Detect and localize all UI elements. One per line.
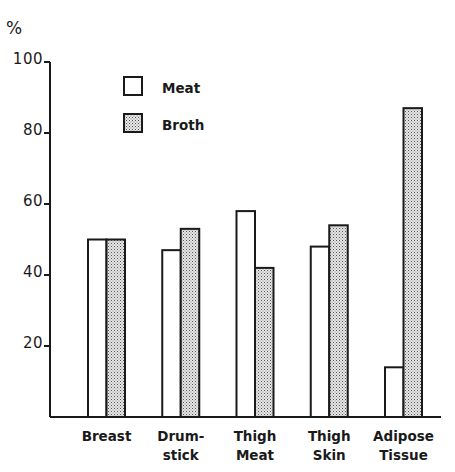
legend: Meat Broth bbox=[124, 77, 204, 133]
bars bbox=[88, 108, 422, 417]
x-category-label: Meat bbox=[236, 447, 275, 463]
bar-meat-breast bbox=[88, 240, 107, 418]
y-tick-label: 40 bbox=[23, 263, 43, 281]
x-category-label: stick bbox=[163, 447, 200, 463]
y-tick-label: 100 bbox=[13, 50, 43, 68]
bar-broth-thigh-meat bbox=[255, 268, 274, 417]
bar-broth-adipose-tissue bbox=[404, 108, 423, 417]
legend-swatch-broth bbox=[124, 114, 142, 132]
legend-swatch-meat bbox=[124, 77, 142, 95]
y-axis-ticks: 10080604020 bbox=[13, 50, 50, 352]
x-axis-labels: BreastDrum-stickThighMeatThighSkinAdipos… bbox=[82, 428, 434, 463]
y-tick-label: 60 bbox=[23, 192, 43, 210]
x-category-label: Thigh bbox=[234, 428, 277, 444]
y-tick-label: 80 bbox=[23, 121, 43, 139]
bar-broth-breast bbox=[107, 240, 126, 418]
x-category-label: Breast bbox=[82, 428, 132, 444]
bar-meat-thigh-skin bbox=[311, 247, 330, 417]
x-category-label: Thigh bbox=[308, 428, 351, 444]
x-category-label: Skin bbox=[313, 447, 346, 463]
x-category-label: Adipose bbox=[373, 428, 434, 444]
x-category-label: Drum- bbox=[157, 428, 204, 444]
bar-meat-drumstick bbox=[162, 250, 181, 417]
x-category-label: Tissue bbox=[379, 447, 428, 463]
legend-label-meat: Meat bbox=[162, 80, 201, 96]
bar-chart: % 10080604020 BreastDrum-stickThighMeatT… bbox=[0, 0, 455, 472]
bar-meat-thigh-meat bbox=[237, 211, 256, 417]
legend-label-broth: Broth bbox=[162, 117, 204, 133]
bar-meat-adipose-tissue bbox=[385, 367, 404, 417]
bar-broth-drumstick bbox=[181, 229, 200, 417]
y-tick-label: 20 bbox=[23, 334, 43, 352]
y-axis-unit-label: % bbox=[6, 18, 22, 38]
bar-broth-thigh-skin bbox=[329, 225, 348, 417]
